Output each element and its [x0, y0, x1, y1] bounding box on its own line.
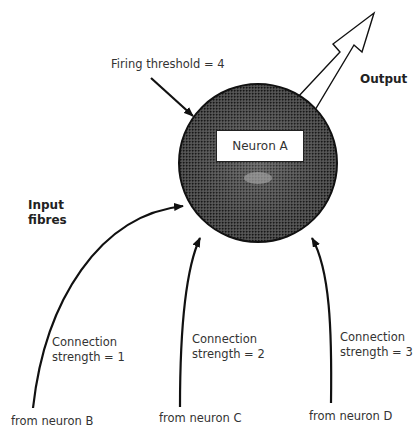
input-fibres-label-line1: Input: [28, 198, 64, 213]
source-neuron-b: from neuron B: [11, 414, 93, 429]
strength-b-line2: strength = 1: [52, 350, 125, 365]
input-fibre-b: [33, 206, 183, 408]
strength-b-line1: Connection: [52, 335, 117, 350]
input-fibre-c: [180, 238, 200, 407]
source-neuron-d: from neuron D: [309, 409, 392, 424]
strength-c-line2: strength = 2: [192, 347, 265, 362]
output-label: Output: [360, 72, 407, 87]
neuron-a-label-box: Neuron A: [216, 130, 304, 162]
firing-threshold-label: Firing threshold = 4: [111, 57, 225, 72]
strength-d-line1: Connection: [340, 330, 405, 345]
neuron-body: [179, 84, 337, 242]
output-arrow: [297, 13, 374, 110]
source-neuron-c: from neuron C: [159, 411, 242, 426]
input-fibre-d: [312, 238, 331, 403]
strength-c-line1: Connection: [192, 332, 257, 347]
strength-d-line2: strength = 3: [340, 345, 413, 360]
input-fibres-label-line2: fibres: [28, 213, 67, 228]
neuron-a-label: Neuron A: [232, 139, 288, 153]
threshold-arrow: [151, 78, 193, 116]
